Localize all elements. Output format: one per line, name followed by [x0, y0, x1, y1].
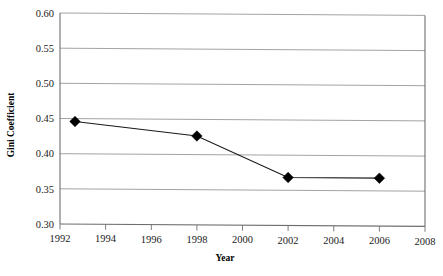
gridline-0.40	[60, 154, 425, 156]
xtick-label-2000: 2000	[232, 234, 253, 245]
xtick-label-1998: 1998	[186, 234, 207, 245]
series-line-path	[75, 122, 379, 179]
xtick-label-2006: 2006	[369, 235, 390, 246]
line-chart: 0.60 0.55 0.50 0.45 0.40 0.35 0.30 1992 …	[0, 0, 443, 276]
gridline-0.50	[60, 83, 425, 85]
data-point-1998	[192, 131, 203, 142]
gridline-0.35	[60, 189, 425, 191]
x-tick-labels: 1992 1994 1996 1998 2000 2002 2004 2006 …	[50, 233, 436, 247]
gridlines	[60, 13, 425, 191]
ytick-label-0.30: 0.30	[36, 219, 54, 230]
ytick-label-0.45: 0.45	[36, 113, 54, 124]
xtick-label-1994: 1994	[95, 233, 117, 244]
ytick-label-0.55: 0.55	[36, 43, 54, 54]
y-tick-labels: 0.60 0.55 0.50 0.45 0.40 0.35 0.30	[36, 8, 54, 230]
xtick-label-2004: 2004	[323, 235, 345, 246]
ytick-label-0.60: 0.60	[36, 8, 54, 19]
data-point-2006	[374, 173, 385, 184]
data-point-1993	[70, 116, 81, 127]
chart-container: 0.60 0.55 0.50 0.45 0.40 0.35 0.30 1992 …	[0, 0, 443, 276]
gridline-0.55	[60, 48, 425, 50]
data-point-2002	[283, 172, 294, 183]
gridline-0.45	[60, 119, 425, 121]
x-axis-title: Year	[216, 253, 236, 263]
xtick-label-2008: 2008	[415, 236, 436, 247]
ytick-label-0.40: 0.40	[36, 148, 54, 159]
ytick-label-0.35: 0.35	[36, 184, 54, 195]
y-axis-title: Gini Coefficient	[6, 92, 16, 157]
series-gini-coefficient	[70, 116, 385, 183]
ytick-label-0.50: 0.50	[36, 78, 54, 89]
xtick-label-1996: 1996	[141, 234, 162, 245]
gridline-0.60	[60, 13, 425, 15]
xtick-label-1992: 1992	[50, 233, 71, 244]
xtick-label-2002: 2002	[278, 235, 299, 246]
